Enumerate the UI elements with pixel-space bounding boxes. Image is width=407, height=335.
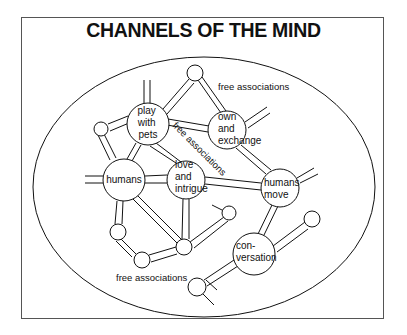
annotation-bottom-left: free associations	[116, 272, 188, 283]
node-small-left	[94, 122, 108, 136]
channels-diagram: play with pets own and exchange humans l…	[0, 0, 407, 335]
node-humans-move	[261, 169, 299, 207]
annotation-top-right: free associations	[218, 81, 290, 92]
node-small-lower-center	[176, 239, 192, 255]
node-small-lower-left	[110, 224, 126, 240]
label-play-with-pets: play with pets	[137, 105, 159, 140]
node-small-bottom	[188, 278, 206, 296]
node-small-top	[187, 65, 203, 81]
node-small-mid-right	[222, 206, 236, 220]
node-small-right	[304, 211, 320, 227]
label-humans: humans	[106, 174, 142, 185]
node-small-bottom-left	[134, 252, 150, 268]
